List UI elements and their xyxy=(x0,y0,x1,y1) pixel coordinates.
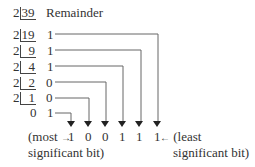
arrow-left-icon: ← xyxy=(160,132,170,143)
arrow-down-icon xyxy=(101,121,109,127)
lsb-label-line2: significant bit) xyxy=(173,146,249,159)
connector-6 xyxy=(55,113,71,122)
arrow-down-icon xyxy=(67,121,75,127)
bit-1: 0 xyxy=(85,130,92,143)
lsb-label-line1: ← (least xyxy=(160,130,201,144)
lsb-text: (least xyxy=(173,129,201,144)
connector-5 xyxy=(55,98,89,122)
arrow-down-icon xyxy=(118,121,126,127)
arrow-down-icon xyxy=(84,121,92,127)
arrow-down-icon xyxy=(135,121,143,127)
msb-text: (most xyxy=(28,129,58,144)
msb-label-line1: (most → xyxy=(28,130,71,144)
bit-0: 1 xyxy=(68,130,75,143)
bit-4: 1 xyxy=(136,130,143,143)
arrow-down-icon xyxy=(153,121,161,127)
connector-2 xyxy=(55,50,141,122)
bit-2: 0 xyxy=(102,130,109,143)
msb-label-line2: significant bit) xyxy=(28,146,104,159)
connector-4 xyxy=(55,82,106,122)
bit-3: 1 xyxy=(119,130,126,143)
